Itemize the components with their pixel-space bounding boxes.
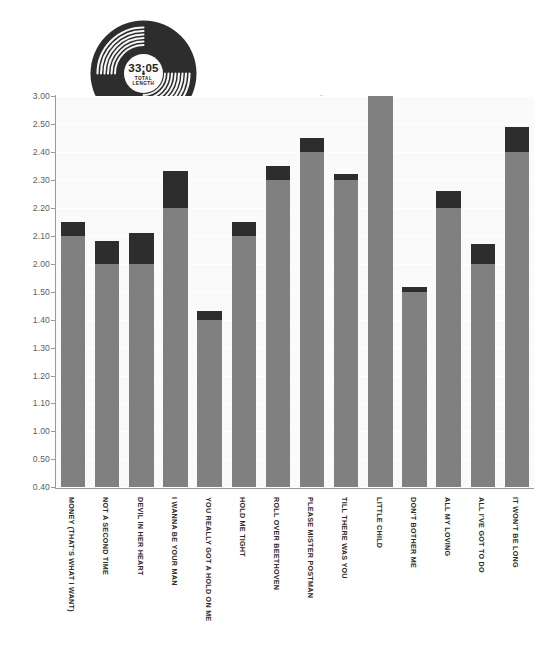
bar-segment-seconds (266, 166, 291, 180)
bar-segment-minutes (232, 236, 257, 487)
x-axis-label-9: TILL THERE WAS YOU (340, 497, 349, 579)
x-axis-label-11: DON'T BOTHER ME (409, 497, 418, 568)
x-axis-label-3: DEVIL IN HER HEART (136, 497, 145, 576)
y-axis-tick-label: 1.00 (4, 426, 50, 436)
bar-segment-minutes (61, 236, 86, 487)
bar-segment-seconds (300, 138, 325, 152)
y-axis-tick-mark (51, 348, 55, 349)
bar-segment-seconds (402, 287, 427, 292)
y-axis-tick-mark (51, 152, 55, 153)
bar-12[interactable] (436, 191, 461, 487)
bar-segment-seconds (471, 244, 496, 264)
bar-segment-seconds (436, 191, 461, 208)
bar-segment-seconds (232, 222, 257, 236)
y-axis-tick-label: 2.50 (4, 119, 50, 129)
bar-segment-seconds (129, 233, 154, 264)
bar-3[interactable] (129, 233, 154, 487)
bar-1[interactable] (61, 222, 86, 487)
bar-segment-minutes (505, 152, 530, 487)
y-axis-tick-mark (51, 236, 55, 237)
x-axis-label-4: I WANNA BE YOUR MAN (170, 497, 179, 586)
y-axis-tick-mark (51, 264, 55, 265)
total-length-label: TOTAL LENGTH (89, 76, 198, 87)
bar-2[interactable] (95, 241, 120, 487)
chart-canvas: 33:05 TOTAL LENGTH 3.002.502.402.302.202… (0, 0, 559, 672)
bar-segment-seconds (95, 241, 120, 263)
bar-5[interactable] (197, 311, 222, 487)
y-axis-tick-label: 1.30 (4, 343, 50, 353)
y-axis-tick-mark (51, 431, 55, 432)
bar-segment-minutes (129, 264, 154, 487)
plot-area (56, 96, 534, 487)
y-axis-tick-label: 3.00 (4, 91, 50, 101)
y-axis-tick-mark (51, 459, 55, 460)
y-axis-tick-label: 2.00 (4, 259, 50, 269)
gridline (56, 292, 534, 293)
bar-segment-minutes (368, 96, 393, 487)
bar-segment-minutes (163, 208, 188, 487)
x-axis-label-7: ROLL OVER BEETHOVEN (272, 497, 281, 590)
bar-10[interactable] (368, 96, 393, 487)
bar-segment-seconds (61, 222, 86, 236)
bar-segment-minutes (266, 180, 291, 487)
x-axis-label-12: ALL MY LOVING (443, 497, 452, 556)
gridline (56, 96, 534, 97)
gridline (56, 236, 534, 237)
x-axis-label-8: PLEASE MISTER POSTMAN (306, 497, 315, 598)
bar-segment-minutes (95, 264, 120, 487)
gridline (56, 431, 534, 432)
x-axis-label-5: YOU REALLY GOT A HOLD ON ME (204, 497, 213, 621)
y-axis-tick-mark (51, 403, 55, 404)
x-axis-label-10: LITTLE CHILD (375, 497, 384, 548)
total-length-label-line2: LENGTH (89, 81, 198, 86)
bar-segment-seconds (505, 127, 530, 152)
y-axis-tick-mark (51, 320, 55, 321)
y-axis-tick-mark (51, 292, 55, 293)
y-axis-tick-mark (51, 180, 55, 181)
bar-8[interactable] (300, 138, 325, 487)
bar-segment-minutes (436, 208, 461, 487)
y-axis-tick-mark (51, 208, 55, 209)
bar-13[interactable] (471, 244, 496, 487)
y-axis-tick-label: 1.10 (4, 398, 50, 408)
bar-14[interactable] (505, 127, 530, 487)
bar-segment-seconds (197, 311, 222, 319)
bar-6[interactable] (232, 222, 257, 487)
x-axis-label-6: HOLD ME TIGHT (238, 497, 247, 557)
bar-11[interactable] (402, 287, 427, 487)
y-axis-tick-label: 1.40 (4, 315, 50, 325)
y-axis-tick-label: 2.20 (4, 203, 50, 213)
bar-segment-minutes (471, 264, 496, 487)
gridline (56, 124, 534, 125)
bar-9[interactable] (334, 174, 359, 487)
gridline (56, 348, 534, 349)
y-axis-tick-label: 2.10 (4, 231, 50, 241)
y-axis-tick-mark (51, 376, 55, 377)
gridline (56, 180, 534, 181)
y-axis-tick-label: 2.40 (4, 147, 50, 157)
x-axis-label-14: IT WON'T BE LONG (511, 497, 520, 568)
y-axis-tick-mark (51, 96, 55, 97)
gridline (56, 208, 534, 209)
gridline (56, 264, 534, 265)
x-axis-line (55, 488, 534, 489)
y-axis-tick-mark (51, 487, 55, 488)
y-axis-tick-label: 1.20 (4, 371, 50, 381)
gridline (56, 459, 534, 460)
x-axis-label-13: ALL I'VE GOT TO DO (477, 497, 486, 573)
y-axis-tick-mark (51, 124, 55, 125)
y-axis-tick-label: 1.50 (4, 287, 50, 297)
gridline (56, 320, 534, 321)
y-axis-tick-label: 0.50 (4, 454, 50, 464)
bar-segment-minutes (334, 180, 359, 487)
bar-segment-minutes (197, 320, 222, 487)
bar-7[interactable] (266, 166, 291, 487)
y-axis-tick-label: 0.40 (4, 482, 50, 492)
bar-segment-minutes (300, 152, 325, 487)
gridline (56, 403, 534, 404)
bar-segment-seconds (334, 174, 359, 180)
bar-4[interactable] (163, 171, 188, 487)
gridline (56, 376, 534, 377)
x-axis-label-2: NOT A SECOND TIME (101, 497, 110, 575)
bar-segment-seconds (163, 171, 188, 207)
